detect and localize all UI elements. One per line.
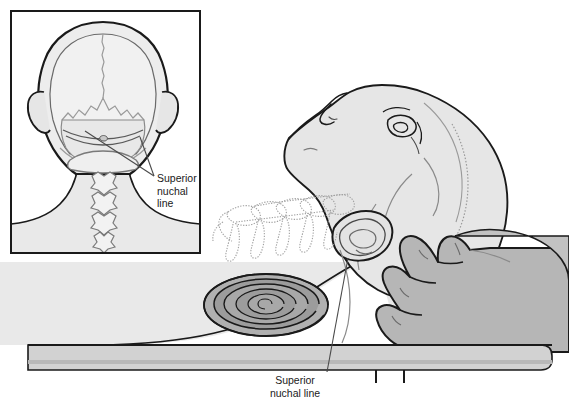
main-label-line-2: nuchal line [263,387,327,400]
inset-label-line-3: line [157,197,197,210]
rolled-towel [204,274,328,336]
inset-label-line-1: Superior [157,172,197,185]
table-legs [376,370,404,383]
medical-illustration-figure: Superior nuchal line Superior nuchal lin… [0,0,569,416]
main-label-line-1: Superior [263,374,327,387]
inset-superior-nuchal-line-label: Superior nuchal line [157,172,197,210]
main-superior-nuchal-line-label: Superior nuchal line [263,374,327,399]
inset-label-line-2: nuchal [157,185,197,198]
illustration-canvas [0,0,569,416]
clinician-hand [376,236,569,352]
external-occipital-protuberance [100,136,108,142]
examination-table [28,345,552,370]
